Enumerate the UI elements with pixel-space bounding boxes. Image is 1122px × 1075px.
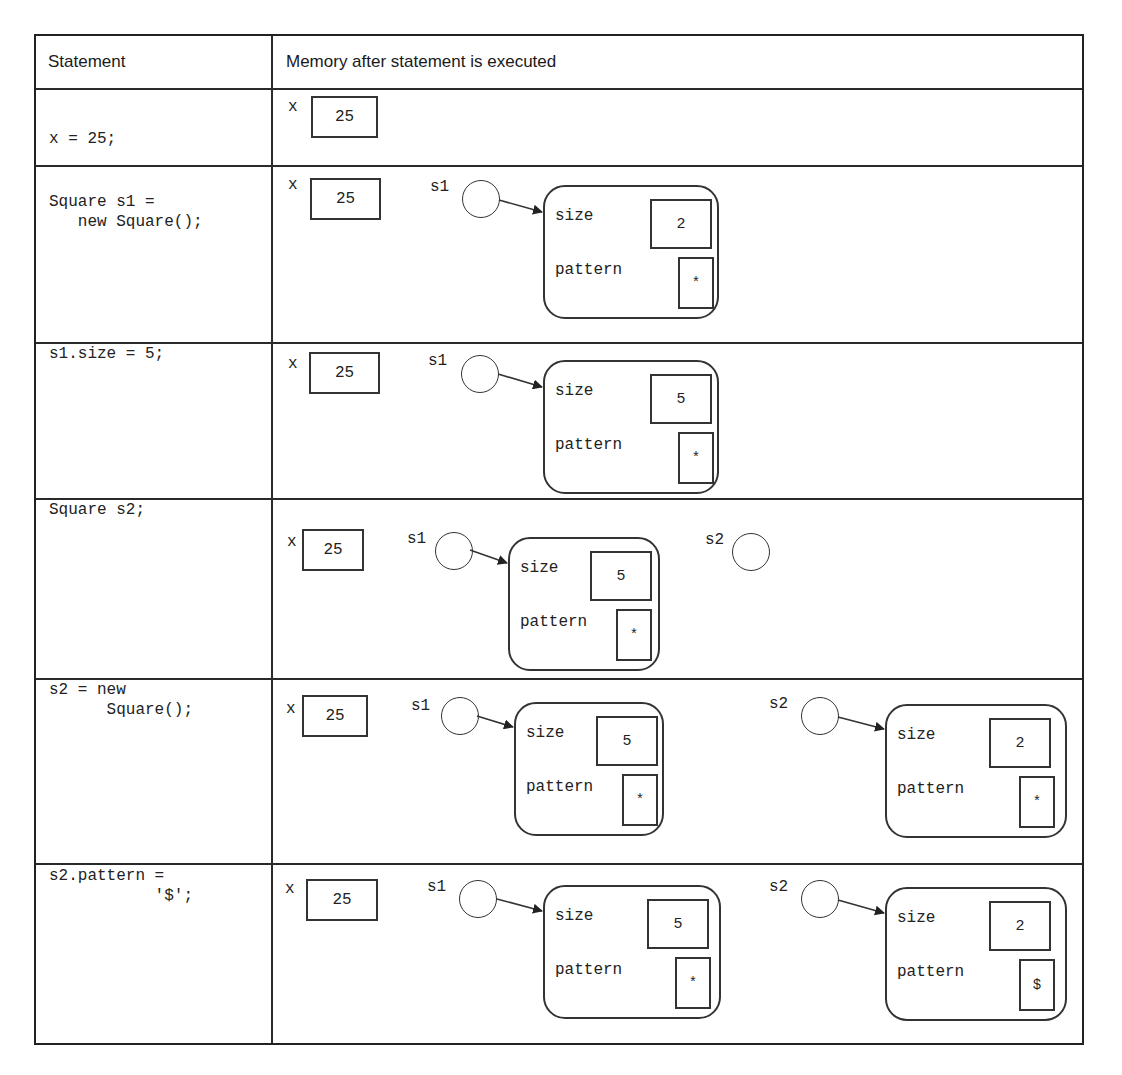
field-size-label: size: [555, 382, 593, 400]
field-pattern-value: *: [622, 774, 658, 826]
field-size-label: size: [520, 559, 558, 577]
ref-s2-label: s2: [769, 878, 788, 896]
var-x-value-box: 25: [302, 529, 364, 571]
ref-s1-label: s1: [411, 697, 430, 715]
ref-s1-label: s1: [407, 530, 426, 548]
field-size-label: size: [897, 726, 935, 744]
ref-s1-pointer: [461, 355, 499, 393]
field-pattern-label: pattern: [526, 778, 593, 796]
field-pattern-value: $: [1019, 959, 1055, 1011]
header-memory: Memory after statement is executed: [286, 52, 556, 72]
field-pattern-label: pattern: [555, 261, 622, 279]
field-pattern-label: pattern: [520, 613, 587, 631]
statement-1: x = 25;: [49, 129, 116, 149]
field-pattern-label: pattern: [555, 436, 622, 454]
var-x-value-box: 25: [309, 352, 380, 394]
field-pattern-value: *: [675, 957, 711, 1009]
square-object-s1: size 5 pattern *: [543, 360, 719, 494]
ref-s2-pointer: [801, 697, 839, 735]
square-object-s1: size 5 pattern *: [514, 702, 664, 836]
ref-s2-label: s2: [705, 531, 724, 549]
ref-s1-pointer: [462, 180, 500, 218]
ref-s2-pointer: [801, 880, 839, 918]
field-size-value: 2: [650, 199, 712, 249]
square-object-s1: size 5 pattern *: [508, 537, 660, 671]
field-size-value: 2: [989, 718, 1051, 768]
field-size-value: 5: [650, 374, 712, 424]
field-pattern-value: *: [678, 257, 714, 309]
row-divider: [36, 863, 1082, 865]
statement-5: s2 = new Square();: [49, 680, 193, 720]
field-pattern-label: pattern: [897, 963, 964, 981]
field-size-value: 5: [590, 551, 652, 601]
field-size-label: size: [526, 724, 564, 742]
column-divider: [271, 36, 273, 1043]
row-divider: [36, 498, 1082, 500]
ref-s1-pointer: [435, 532, 473, 570]
var-x-value-box: 25: [310, 178, 381, 220]
ref-s1-pointer: [459, 880, 497, 918]
statement-3: s1.size = 5;: [49, 344, 164, 364]
var-x-label: x: [286, 700, 296, 718]
ref-s1-pointer: [441, 697, 479, 735]
var-x-label: x: [288, 176, 298, 194]
statement-2: Square s1 = new Square();: [49, 192, 203, 232]
header-statement: Statement: [48, 52, 126, 72]
ref-s1-label: s1: [430, 178, 449, 196]
ref-s2-pointer: [732, 533, 770, 571]
square-object-s1: size 5 pattern *: [543, 885, 721, 1019]
statement-6: s2.pattern = '$';: [49, 866, 193, 906]
var-x-label: x: [287, 533, 297, 551]
row-divider: [36, 165, 1082, 167]
field-size-label: size: [897, 909, 935, 927]
var-x-value-box: 25: [311, 96, 378, 138]
var-x-label: x: [285, 880, 295, 898]
square-object-s2: size 2 pattern *: [885, 704, 1067, 838]
field-size-label: size: [555, 207, 593, 225]
field-size-value: 5: [596, 716, 658, 766]
field-size-value: 2: [989, 901, 1051, 951]
statement-4: Square s2;: [49, 500, 145, 520]
var-x-value-box: 25: [306, 879, 378, 921]
var-x-label: x: [288, 355, 298, 373]
field-pattern-value: *: [678, 432, 714, 484]
header-divider: [36, 88, 1082, 90]
field-pattern-label: pattern: [897, 780, 964, 798]
ref-s2-label: s2: [769, 695, 788, 713]
square-object-s1: size 2 pattern *: [543, 185, 719, 319]
field-pattern-label: pattern: [555, 961, 622, 979]
square-object-s2: size 2 pattern $: [885, 887, 1067, 1021]
ref-s1-label: s1: [428, 352, 447, 370]
row-divider: [36, 342, 1082, 344]
field-size-value: 5: [647, 899, 709, 949]
field-pattern-value: *: [616, 609, 652, 661]
var-x-value-box: 25: [302, 695, 368, 737]
field-size-label: size: [555, 907, 593, 925]
field-pattern-value: *: [1019, 776, 1055, 828]
ref-s1-label: s1: [427, 878, 446, 896]
var-x-label: x: [288, 98, 298, 116]
